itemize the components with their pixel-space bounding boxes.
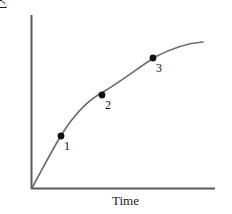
chart-canvas — [0, 0, 232, 214]
data-point-3-label: 3 — [156, 62, 162, 74]
data-point-2-label: 2 — [105, 99, 111, 111]
x-axis-title: Time — [112, 194, 139, 207]
y-axis-title: [X] — [0, 0, 7, 9]
concentration-curve — [32, 42, 203, 188]
data-point-1-label: 1 — [64, 140, 70, 152]
reaction-progress-chart: 1 2 3 Time [X] — [0, 0, 232, 214]
